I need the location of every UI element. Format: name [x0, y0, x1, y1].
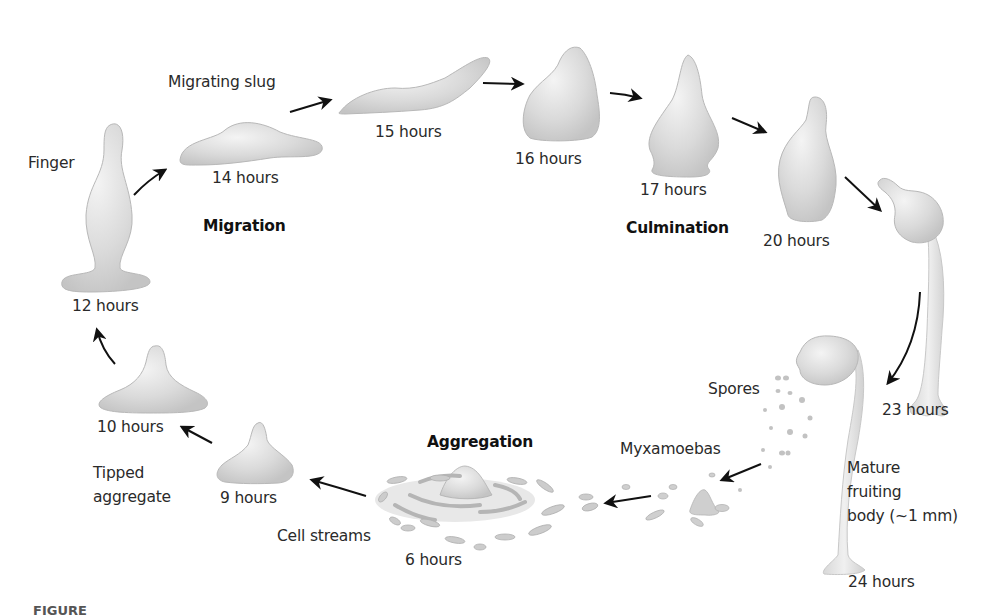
phase-migration: Migration: [203, 218, 286, 235]
label-16-hours: 16 hours: [515, 151, 582, 168]
arrow-icon: [610, 93, 640, 98]
label-6-hours: 6 hours: [405, 552, 462, 569]
stage-17h: [649, 55, 719, 177]
phase-culmination: Culmination: [626, 220, 729, 237]
stage-6h-aggregation: [375, 466, 599, 550]
label-mature-line3: body (~1 mm): [847, 508, 958, 525]
label-migrating-slug: Migrating slug: [168, 74, 276, 91]
label-myxamoebas: Myxamoebas: [620, 441, 721, 458]
arrow-icon: [312, 480, 366, 496]
arrow-icon: [606, 496, 651, 503]
arrow-icon: [134, 170, 165, 195]
label-10-hours: 10 hours: [97, 419, 164, 436]
arrow-icon: [722, 464, 761, 480]
label-20-hours: 20 hours: [763, 233, 830, 250]
arrow-icon: [97, 330, 115, 364]
stage-16h: [523, 47, 599, 141]
label-mature-line2: fruiting: [847, 484, 901, 501]
arrow-icon: [732, 118, 765, 132]
stage-9h-tipped-aggregate: [217, 422, 293, 483]
life-cycle-diagram: Finger Migrating slug 14 hours Migration…: [0, 0, 994, 615]
stage-24h-fruiting-body: [796, 336, 865, 575]
label-tipped-line2: aggregate: [93, 489, 171, 506]
arrow-icon: [182, 427, 212, 443]
label-17-hours: 17 hours: [640, 182, 707, 199]
stage-15h-slug: [339, 58, 490, 114]
label-spores: Spores: [708, 381, 760, 398]
stage-23h: [878, 178, 946, 415]
label-12-hours: 12 hours: [72, 298, 139, 315]
label-23-hours: 23 hours: [882, 402, 949, 419]
stage-20h: [779, 97, 837, 222]
stage-12h-finger: [62, 124, 150, 292]
label-mature-line1: Mature: [847, 460, 900, 477]
label-9-hours: 9 hours: [220, 490, 277, 507]
stage-14h-slug: [180, 123, 322, 165]
phase-aggregation: Aggregation: [427, 434, 533, 451]
figure-caption: FIGURE: [33, 603, 87, 615]
stage-10h: [99, 346, 207, 413]
label-14-hours: 14 hours: [212, 170, 279, 187]
label-24-hours: 24 hours: [848, 574, 915, 591]
myxamoebas: [622, 473, 729, 528]
label-cell-streams: Cell streams: [277, 528, 371, 545]
arrow-icon: [888, 292, 920, 383]
diagram-artwork: [0, 0, 994, 615]
label-finger: Finger: [28, 155, 74, 172]
label-15-hours: 15 hours: [375, 124, 442, 141]
arrow-icon: [845, 177, 880, 210]
label-tipped-line1: Tipped: [93, 465, 144, 482]
arrow-icon: [290, 100, 330, 112]
arrow-icon: [483, 83, 522, 84]
